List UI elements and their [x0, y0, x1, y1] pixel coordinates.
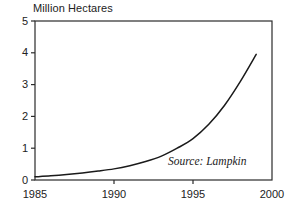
x-tick-label-wrap: 1990 [92, 184, 136, 202]
y-tick-label: 4 [14, 47, 28, 58]
y-tick-label: 1 [14, 143, 28, 154]
x-tick-label-wrap: 1995 [171, 184, 215, 202]
y-tick-label: 3 [14, 79, 28, 90]
y-tick-label: 2 [14, 111, 28, 122]
x-tick-label-wrap: 1985 [13, 184, 57, 202]
x-tick-label: 1995 [181, 188, 205, 200]
y-tick-label: 5 [14, 16, 28, 27]
x-tick-label: 2000 [260, 188, 284, 200]
x-tick-label: 1985 [23, 188, 47, 200]
source-annotation: Source: Lampkin [168, 155, 246, 168]
chart-figure: Million Hectares 012345 1985199019952000… [0, 0, 285, 208]
x-tick-label: 1990 [102, 188, 126, 200]
plot-area [0, 0, 285, 208]
x-tick-label-wrap: 2000 [250, 184, 285, 202]
